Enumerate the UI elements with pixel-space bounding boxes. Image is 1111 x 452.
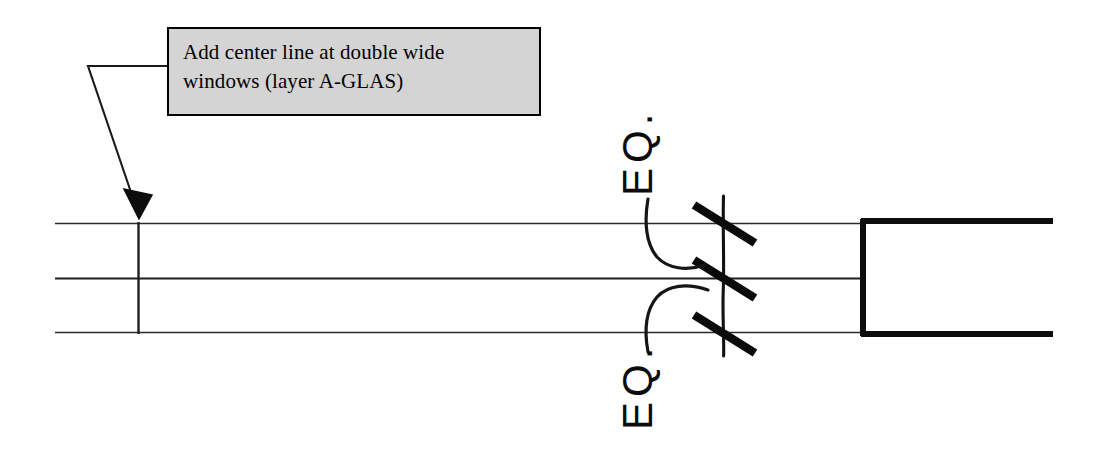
leader-line-group	[88, 66, 167, 219]
callout-note-line-1: Add center line at double wide	[183, 40, 444, 64]
wall-heavy-section	[861, 219, 1053, 336]
callout-note-text: Add center line at double wide windows (…	[183, 38, 531, 96]
drawing-canvas: EQ. EQ. Add center line at double wide w…	[0, 0, 1111, 452]
leader-line	[88, 66, 167, 207]
callout-note-line-2: windows (layer A-GLAS)	[183, 69, 403, 93]
leader-arrowhead-icon	[124, 189, 152, 219]
eq-label-bottom: EQ.	[614, 343, 662, 430]
callout-note-box[interactable]: Add center line at double wide windows (…	[167, 27, 541, 116]
eq-label-top: EQ.	[614, 109, 662, 196]
handdrawn-arcs	[646, 199, 708, 352]
